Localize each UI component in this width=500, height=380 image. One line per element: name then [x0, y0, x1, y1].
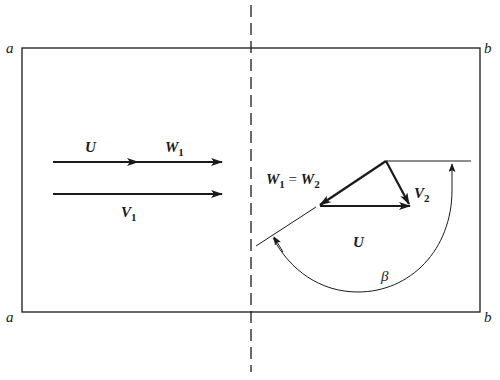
u-outlet-label: U [353, 234, 365, 250]
w1-inlet-label: W1 [165, 139, 184, 158]
v2-outlet-label: V2 [414, 185, 430, 204]
velocity-triangle-diagram: a b a b U W1 V1 W1 = W2 V2 U β [0, 0, 500, 380]
w2-outlet-arrow [320, 161, 386, 205]
v1-inlet-label: V1 [121, 204, 137, 223]
w1-equals-w2-label: W1 = W2 [266, 171, 320, 190]
u-inlet-label: U [85, 139, 97, 155]
v2-outlet-arrow [386, 161, 409, 204]
beta-angle-arc-start-arrow [274, 237, 283, 252]
corner-label-bottom-right: b [484, 309, 492, 325]
corner-label-top-left: a [6, 40, 14, 56]
beta-angle-label: β [380, 268, 389, 284]
blade-tangent-line [256, 207, 316, 246]
corner-label-bottom-left: a [6, 309, 14, 325]
corner-label-top-right: b [484, 40, 492, 56]
